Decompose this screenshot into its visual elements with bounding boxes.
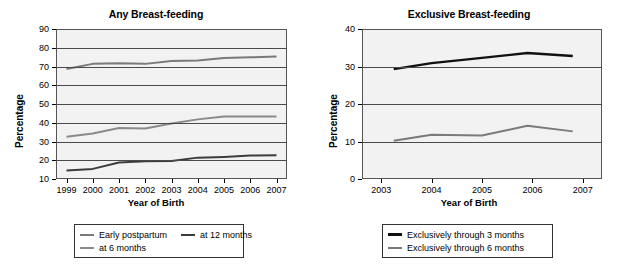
x-tick-label: 2001 <box>109 185 129 195</box>
y-axis-label: Percentage <box>328 94 339 148</box>
y-tick-mark <box>358 29 362 30</box>
legend-label: Early postpartum <box>99 229 167 241</box>
y-tick-mark <box>52 142 56 143</box>
x-tick-mark <box>532 179 533 183</box>
legend-entry: Exclusively through 6 months <box>388 242 524 254</box>
x-tick-mark <box>198 179 199 183</box>
x-tick-label: 2004 <box>188 185 208 195</box>
series-line <box>67 117 277 137</box>
x-tick-label: 2007 <box>573 185 593 195</box>
gridline <box>56 160 287 161</box>
x-tick-mark <box>250 179 251 183</box>
legend-row: Early postpartumat 12 months <box>80 228 237 241</box>
gridline <box>362 142 602 143</box>
y-tick-mark <box>52 85 56 86</box>
y-tick-label: 40 <box>345 24 355 34</box>
legend-entry: at 12 months <box>181 229 252 241</box>
x-tick-label: 2002 <box>135 185 155 195</box>
x-tick-label: 2006 <box>522 185 542 195</box>
legend-line-swatch <box>80 247 94 249</box>
legend-line-swatch <box>181 234 195 236</box>
y-tick-mark <box>358 104 362 105</box>
legend-row: at 6 months <box>80 241 237 254</box>
x-tick-label: 2003 <box>161 185 181 195</box>
x-tick-mark <box>119 179 120 183</box>
x-tick-mark <box>145 179 146 183</box>
x-tick-mark <box>277 179 278 183</box>
y-tick-mark <box>52 160 56 161</box>
y-tick-mark <box>52 179 56 180</box>
x-tick-mark <box>93 179 94 183</box>
x-tick-mark <box>432 179 433 183</box>
plot-area <box>56 29 287 179</box>
y-tick-label: 50 <box>39 99 49 109</box>
x-tick-mark <box>224 179 225 183</box>
x-tick-mark <box>67 179 68 183</box>
y-tick-mark <box>52 104 56 105</box>
y-tick-mark <box>358 142 362 143</box>
plot-area <box>362 29 602 179</box>
x-tick-label: 1999 <box>56 185 76 195</box>
gridline <box>56 85 287 86</box>
y-tick-label: 30 <box>39 137 49 147</box>
gridline <box>56 48 287 49</box>
gridline <box>362 67 602 68</box>
legend-entry: at 6 months <box>80 242 146 254</box>
panel-title: Exclusive Breast-feeding <box>313 8 625 20</box>
legend-label: Exclusively through 6 months <box>407 242 524 254</box>
x-tick-mark <box>172 179 173 183</box>
y-tick-mark <box>358 67 362 68</box>
y-tick-mark <box>52 67 56 68</box>
y-tick-mark <box>52 48 56 49</box>
y-tick-label: 60 <box>39 80 49 90</box>
y-tick-mark <box>52 123 56 124</box>
legend-label: Exclusively through 3 months <box>407 229 524 241</box>
series-line <box>67 155 277 170</box>
gridline <box>362 104 602 105</box>
y-axis-label: Percentage <box>14 94 25 148</box>
legend-exclusive-breastfeeding: Exclusively through 3 monthsExclusively … <box>382 224 553 258</box>
y-tick-label: 20 <box>345 99 355 109</box>
legend-label: at 12 months <box>200 229 252 241</box>
legend-row: Exclusively through 6 months <box>388 241 546 254</box>
y-tick-label: 30 <box>345 62 355 72</box>
legend-any-breastfeeding: Early postpartumat 12 monthsat 6 months <box>74 224 244 258</box>
gridline <box>56 104 287 105</box>
y-tick-label: 10 <box>39 174 49 184</box>
panel-title: Any Breast-feeding <box>0 8 312 20</box>
y-tick-label: 0 <box>350 174 355 184</box>
figure-root: Any Breast-feeding Percentage Year of Bi… <box>0 0 625 272</box>
x-tick-label: 2003 <box>371 185 391 195</box>
x-tick-mark <box>583 179 584 183</box>
y-tick-mark <box>358 179 362 180</box>
series-line <box>394 126 573 141</box>
y-tick-label: 40 <box>39 118 49 128</box>
x-tick-label: 2007 <box>266 185 286 195</box>
y-tick-mark <box>52 29 56 30</box>
x-tick-label: 2005 <box>472 185 492 195</box>
y-tick-label: 90 <box>39 24 49 34</box>
legend-line-swatch <box>388 233 402 236</box>
legend-line-swatch <box>80 234 94 236</box>
x-tick-mark <box>381 179 382 183</box>
x-tick-label: 2000 <box>83 185 103 195</box>
y-tick-label: 70 <box>39 62 49 72</box>
x-tick-label: 2006 <box>240 185 260 195</box>
gridline <box>56 67 287 68</box>
legend-entry: Early postpartum <box>80 229 167 241</box>
gridline <box>56 123 287 124</box>
gridline <box>56 142 287 143</box>
legend-label: at 6 months <box>99 242 146 254</box>
y-tick-label: 10 <box>345 137 355 147</box>
x-tick-label: 2004 <box>422 185 442 195</box>
x-tick-label: 2005 <box>214 185 234 195</box>
x-tick-mark <box>482 179 483 183</box>
legend-entry: Exclusively through 3 months <box>388 229 524 241</box>
y-tick-label: 20 <box>39 155 49 165</box>
x-axis-label: Year of Birth <box>313 197 625 208</box>
legend-row: Exclusively through 3 months <box>388 228 546 241</box>
x-axis-label: Year of Birth <box>0 197 312 208</box>
legend-line-swatch <box>388 247 402 249</box>
y-tick-label: 80 <box>39 43 49 53</box>
